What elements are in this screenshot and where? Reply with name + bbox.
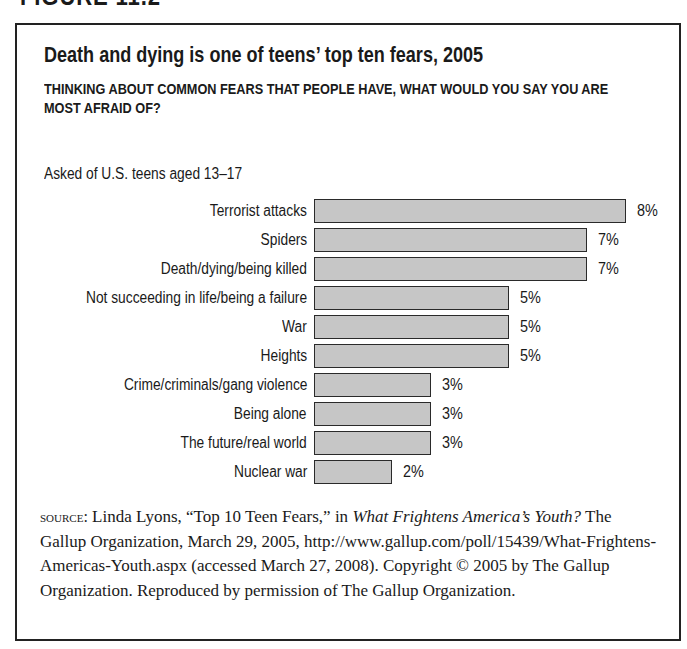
bar (314, 402, 431, 426)
bar (314, 344, 509, 368)
category-label: Being alone (234, 403, 307, 425)
bar-row: Nuclear war2% (0, 460, 687, 484)
category-label: Death/dying/being killed (161, 258, 307, 280)
bar-row: Crime/criminals/gang violence3% (0, 373, 687, 397)
bar (314, 431, 431, 455)
value-label: 7% (598, 229, 619, 251)
category-label: Crime/criminals/gang violence (123, 374, 307, 396)
bar-row: War5% (0, 315, 687, 339)
source-label: SOURCE: (40, 508, 88, 525)
source-text: Linda Lyons, “Top 10 Teen Fears,” in (88, 507, 353, 526)
value-label: 3% (442, 374, 463, 396)
category-label: Not succeeding in life/being a failure (86, 287, 307, 309)
value-label: 5% (520, 287, 541, 309)
value-label: 5% (520, 316, 541, 338)
bar (314, 286, 509, 310)
value-label: 8% (637, 200, 658, 222)
source-publication-title: What Frightens America’s Youth? (352, 507, 581, 526)
category-label: Heights (260, 345, 307, 367)
value-label: 2% (403, 461, 424, 483)
bar-row: Not succeeding in life/being a failure5% (0, 286, 687, 310)
bar-row: The future/real world3% (0, 431, 687, 455)
value-label: 3% (442, 432, 463, 454)
value-label: 5% (520, 345, 541, 367)
bar (314, 199, 626, 223)
bar (314, 315, 509, 339)
category-label: War (282, 316, 307, 338)
bar-row: Death/dying/being killed7% (0, 257, 687, 281)
bar (314, 373, 431, 397)
bar-row: Spiders7% (0, 228, 687, 252)
category-label: Spiders (260, 229, 307, 251)
category-label: Terrorist attacks (210, 200, 307, 222)
bar-row: Heights5% (0, 344, 687, 368)
bar (314, 460, 392, 484)
category-label: Nuclear war (234, 461, 307, 483)
bar-row: Terrorist attacks8% (0, 199, 687, 223)
category-label: The future/real world (181, 432, 307, 454)
bar (314, 228, 587, 252)
value-label: 3% (442, 403, 463, 425)
source-citation: SOURCE: Linda Lyons, “Top 10 Teen Fears,… (40, 505, 660, 603)
bar (314, 257, 587, 281)
value-label: 7% (598, 258, 619, 280)
bar-row: Being alone3% (0, 402, 687, 426)
